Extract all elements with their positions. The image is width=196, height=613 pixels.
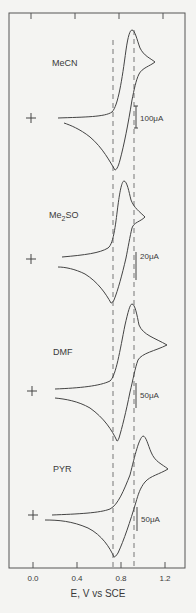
cv-trace-dmf [55,304,167,441]
scale-label-pyr: 50μA [141,515,161,524]
label-me2so: Me2SO [49,210,78,222]
scale-label-dmf: 50μA [140,391,160,400]
cyclic-voltammogram-figure: MeCN Me2SO DMF PYR 100μA 20μA 50μA 50μA … [0,0,196,613]
top-ticks [31,13,163,19]
x-axis-label: E, V vs SCE [70,588,125,599]
reference-lines [113,30,134,568]
label-dmf: DMF [53,347,73,357]
scale-label-me2so: 20μA [140,252,160,261]
plot-frame [9,13,185,568]
origin-markers [26,113,38,520]
svg-text:0.0: 0.0 [27,574,39,583]
cross-marker-dmf [27,386,37,396]
svg-text:1.2: 1.2 [159,574,171,583]
cv-trace-pyr [45,436,168,557]
label-pyr: PYR [53,464,72,474]
scale-bar-mecn [134,106,138,128]
svg-text:0.8: 0.8 [115,574,127,583]
x-tick-labels: 0.0 0.4 0.8 1.2 [27,574,171,583]
cross-marker-me2so [26,254,36,264]
bottom-ticks [33,562,165,568]
scale-label-mecn: 100μA [140,114,164,123]
cross-marker-pyr [28,510,38,520]
cv-trace-mecn [58,30,155,170]
svg-text:0.4: 0.4 [71,574,83,583]
cross-marker-mecn [26,113,36,123]
label-mecn: MeCN [52,58,78,68]
cv-trace-me2so [58,181,145,303]
